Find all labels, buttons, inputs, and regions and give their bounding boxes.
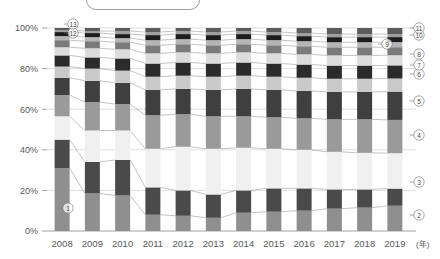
bar-segment-①[interactable] (327, 209, 342, 231)
series-marker-3[interactable]: 3 (410, 177, 424, 187)
bar-segment-⑤[interactable] (327, 92, 342, 119)
bar-segment-⑧[interactable] (387, 55, 402, 65)
bar-segment-②[interactable] (297, 188, 312, 210)
series-marker-13[interactable]: 13 (64, 19, 78, 29)
bar-segment-⑧[interactable] (266, 53, 281, 63)
bar-segment-⑨[interactable] (145, 45, 160, 53)
series-marker-8[interactable]: 8 (410, 49, 424, 59)
bar-segment-③[interactable] (206, 149, 221, 195)
bar-segment-⑧[interactable] (55, 47, 70, 55)
series-marker-6[interactable]: 6 (410, 69, 424, 79)
bar-segment-⑧[interactable] (357, 55, 372, 65)
bar-segment-⑬[interactable] (176, 28, 191, 31)
bar-segment-⑤[interactable] (387, 92, 402, 120)
bar-segment-⑫[interactable] (176, 31, 191, 34)
bar-segment-⑬[interactable] (327, 28, 342, 34)
bar-segment-①[interactable] (85, 193, 100, 231)
bar-segment-①[interactable] (357, 208, 372, 231)
bar-segment-④[interactable] (145, 115, 160, 148)
bar-segment-⑥[interactable] (145, 77, 160, 90)
bar-segment-⑨[interactable] (176, 44, 191, 52)
bar-segment-⑧[interactable] (236, 52, 251, 62)
bar-segment-⑫[interactable] (297, 33, 312, 36)
bar-2019[interactable] (387, 28, 402, 231)
bar-segment-⑤[interactable] (145, 90, 160, 115)
bar-segment-⑦[interactable] (55, 55, 70, 66)
bar-segment-⑥[interactable] (55, 67, 70, 78)
bar-segment-⑪[interactable] (206, 35, 221, 40)
bar-segment-⑩[interactable] (206, 40, 221, 45)
bar-segment-⑥[interactable] (387, 78, 402, 91)
bar-segment-④[interactable] (327, 119, 342, 151)
bar-2011[interactable] (145, 28, 160, 231)
bar-segment-②[interactable] (115, 160, 130, 196)
bar-segment-③[interactable] (55, 116, 70, 139)
bar-segment-⑤[interactable] (115, 83, 130, 104)
bar-segment-①[interactable] (145, 215, 160, 231)
bar-segment-⑪[interactable] (145, 35, 160, 40)
bar-segment-⑦[interactable] (115, 58, 130, 70)
bar-segment-⑨[interactable] (85, 41, 100, 48)
bar-segment-⑥[interactable] (206, 77, 221, 90)
bar-2008[interactable] (55, 28, 70, 231)
bar-segment-⑧[interactable] (176, 52, 191, 62)
bar-segment-⑬[interactable] (115, 28, 130, 31)
bar-segment-⑩[interactable] (85, 37, 100, 41)
bar-2015[interactable] (266, 28, 281, 231)
bar-segment-⑦[interactable] (85, 57, 100, 68)
bar-segment-②[interactable] (327, 189, 342, 208)
bar-segment-⑧[interactable] (327, 55, 342, 65)
bar-segment-⑩[interactable] (327, 42, 342, 47)
bar-segment-⑬[interactable] (206, 28, 221, 32)
bar-segment-⑦[interactable] (176, 63, 191, 76)
bar-segment-⑥[interactable] (115, 71, 130, 83)
bar-segment-⑨[interactable] (327, 47, 342, 55)
series-marker-11[interactable]: 11 (410, 23, 424, 33)
bar-2014[interactable] (236, 28, 251, 231)
bar-segment-③[interactable] (357, 153, 372, 190)
bar-segment-⑦[interactable] (206, 64, 221, 77)
bar-segment-②[interactable] (55, 140, 70, 168)
bar-segment-⑥[interactable] (266, 77, 281, 90)
bar-segment-⑫[interactable] (387, 34, 402, 37)
bar-segment-④[interactable] (266, 117, 281, 148)
bar-segment-③[interactable] (176, 147, 191, 191)
bar-segment-⑩[interactable] (297, 41, 312, 46)
bar-segment-④[interactable] (206, 116, 221, 148)
bar-segment-⑫[interactable] (266, 32, 281, 35)
bar-segment-⑫[interactable] (206, 32, 221, 35)
bar-segment-②[interactable] (145, 187, 160, 214)
bar-segment-①[interactable] (115, 195, 130, 231)
bar-2012[interactable] (176, 28, 191, 231)
bar-segment-⑥[interactable] (327, 79, 342, 92)
bar-segment-⑨[interactable] (357, 47, 372, 55)
bar-segment-⑬[interactable] (55, 28, 70, 30)
bar-2009[interactable] (85, 28, 100, 231)
bar-segment-⑥[interactable] (236, 76, 251, 89)
bar-segment-②[interactable] (357, 189, 372, 207)
bar-segment-①[interactable] (206, 218, 221, 231)
bar-segment-⑪[interactable] (297, 36, 312, 41)
bar-segment-⑩[interactable] (236, 39, 251, 44)
bar-segment-②[interactable] (266, 188, 281, 211)
bar-segment-③[interactable] (145, 149, 160, 188)
bar-segment-⑨[interactable] (206, 45, 221, 53)
bar-segment-⑥[interactable] (297, 78, 312, 91)
bar-segment-⑨[interactable] (115, 42, 130, 49)
bar-segment-⑬[interactable] (297, 28, 312, 33)
bar-segment-⑨[interactable] (297, 46, 312, 54)
bar-segment-⑩[interactable] (55, 36, 70, 40)
series-marker-5[interactable]: 5 (410, 96, 424, 106)
bar-segment-⑬[interactable] (357, 28, 372, 34)
bar-segment-⑪[interactable] (266, 35, 281, 40)
bar-segment-④[interactable] (357, 119, 372, 152)
bar-segment-⑬[interactable] (236, 28, 251, 31)
bar-segment-⑤[interactable] (176, 89, 191, 114)
bar-segment-⑤[interactable] (297, 91, 312, 118)
bar-2010[interactable] (115, 28, 130, 231)
bar-segment-④[interactable] (387, 120, 402, 153)
series-marker-2[interactable]: 2 (410, 210, 424, 220)
series-marker-4[interactable]: 4 (410, 130, 424, 140)
bar-segment-⑪[interactable] (115, 34, 130, 38)
bar-segment-①[interactable] (266, 212, 281, 231)
